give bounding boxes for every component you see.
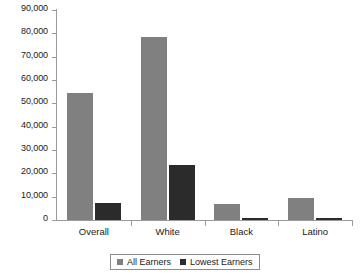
x-axis-separator-tick <box>352 221 353 226</box>
y-axis-tick-label: 40,000 <box>21 120 48 130</box>
bar-chart: 010,00020,00030,00040,00050,00060,00070,… <box>0 0 360 276</box>
y-axis-tick-mark <box>52 220 57 221</box>
legend-label: Lowest Earners <box>190 257 253 267</box>
bar-overall-lowest-earners <box>95 203 121 221</box>
y-axis-tick-label: 70,000 <box>21 50 48 60</box>
bar-latino-lowest-earners <box>316 218 342 220</box>
y-axis-tick-label: 10,000 <box>21 190 48 200</box>
y-axis-tick-label: 80,000 <box>21 26 48 36</box>
bar-white-all-earners <box>141 37 167 220</box>
y-axis-tick-label: 50,000 <box>21 96 48 106</box>
bar-white-lowest-earners <box>169 165 195 220</box>
x-axis-category-label: Black <box>205 226 279 237</box>
legend-label: All Earners <box>127 257 171 267</box>
y-axis-tick-label: 0 <box>43 213 48 223</box>
legend-entry: Lowest Earners <box>180 257 253 267</box>
legend-entry: All Earners <box>117 257 171 267</box>
bar-overall-all-earners <box>67 93 93 220</box>
x-axis-category-label: White <box>131 226 205 237</box>
y-axis-tick-label: 30,000 <box>21 143 48 153</box>
legend-swatch-icon <box>180 259 186 265</box>
bar-black-all-earners <box>214 204 240 220</box>
x-axis-category-label: Overall <box>57 226 131 237</box>
y-axis-tick-label: 90,000 <box>21 3 48 13</box>
y-axis-tick-label: 20,000 <box>21 166 48 176</box>
bar-black-lowest-earners <box>242 218 268 220</box>
plot-area <box>57 10 352 220</box>
chart-legend: All EarnersLowest Earners <box>110 254 260 270</box>
legend-swatch-icon <box>117 259 123 265</box>
x-axis-category-label: Latino <box>278 226 352 237</box>
bar-latino-all-earners <box>288 198 314 220</box>
y-axis-tick-label: 60,000 <box>21 73 48 83</box>
